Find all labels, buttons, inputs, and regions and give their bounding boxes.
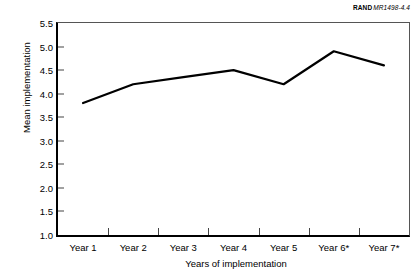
- x-tick-label: Year 1: [70, 242, 97, 253]
- figure: RANDMR1498-4.4 Mean implementation 5.55.…: [0, 0, 418, 280]
- x-tick-label: Year 6*: [318, 242, 349, 253]
- y-tick-label: 2.5: [40, 159, 53, 170]
- series-line: [83, 51, 384, 103]
- y-tick-label: 2.0: [40, 182, 53, 193]
- x-tick-label: Year 3: [170, 242, 197, 253]
- x-tick-label: Year 2: [120, 242, 147, 253]
- y-tick-label: 5.0: [40, 41, 53, 52]
- y-tick-label: 3.5: [40, 112, 53, 123]
- y-tick-label: 3.0: [40, 135, 53, 146]
- document-number: MR1498-4.4: [373, 4, 410, 11]
- x-tick-label: Year 7*: [369, 242, 400, 253]
- data-series-line: [58, 23, 409, 235]
- rand-logo-text: RAND: [353, 4, 372, 11]
- x-tick-label: Year 5: [270, 242, 297, 253]
- y-tick-label: 1.5: [40, 206, 53, 217]
- x-axis-title: Years of implementation: [56, 258, 416, 269]
- y-tick-label: 1.0: [40, 230, 53, 241]
- y-tick-label: 4.5: [40, 65, 53, 76]
- plot-area: 5.55.04.54.03.53.02.52.01.51.0 Year 1Yea…: [56, 22, 410, 237]
- y-tick-label: 5.5: [40, 18, 53, 29]
- y-axis-title: Mean implementation: [21, 18, 32, 158]
- y-tick-label: 4.0: [40, 88, 53, 99]
- credit-line: RANDMR1498-4.4: [353, 5, 410, 12]
- x-tick-label: Year 4: [220, 242, 247, 253]
